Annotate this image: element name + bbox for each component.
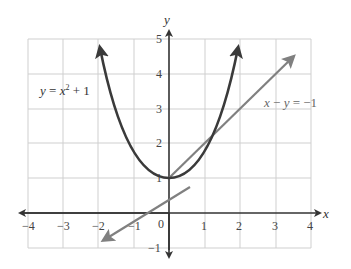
svg-text:−1: −1	[148, 241, 161, 255]
parabola-y-eq-x2-plus-1-right	[169, 48, 238, 178]
x-axis-label: x	[322, 206, 329, 221]
svg-text:−2: −2	[92, 219, 105, 233]
svg-text:4: 4	[307, 219, 313, 233]
svg-text:2: 2	[236, 219, 242, 233]
svg-text:0: 0	[158, 217, 164, 231]
svg-text:1: 1	[201, 219, 207, 233]
svg-text:2: 2	[156, 136, 162, 150]
coordinate-plane: x y −4 −3 −2 −1 0 1 2 3 4 −1 1 2 3 4 5 y…	[0, 0, 351, 269]
line-equation-label: x − y = −1	[263, 95, 317, 110]
svg-text:4: 4	[156, 67, 162, 81]
svg-text:−3: −3	[57, 219, 70, 233]
parabola-equation-label: y = x2 + 1	[38, 83, 90, 98]
svg-text:−4: −4	[22, 219, 35, 233]
svg-text:5: 5	[156, 32, 162, 46]
x-tick-labels: −4 −3 −2 −1 0 1 2 3 4	[22, 217, 313, 233]
svg-text:3: 3	[272, 219, 278, 233]
svg-text:3: 3	[156, 102, 162, 116]
y-axis-label: y	[162, 12, 170, 27]
